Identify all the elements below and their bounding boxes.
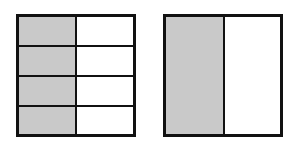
left-square-fraction-4-of-8	[16, 14, 136, 137]
horizontal-divider-2	[19, 75, 133, 77]
right-square-fraction-1-of-2	[163, 14, 283, 137]
vertical-divider	[223, 17, 225, 134]
horizontal-divider-1	[19, 45, 133, 47]
horizontal-divider-3	[19, 105, 133, 107]
shaded-left-half	[166, 17, 223, 134]
